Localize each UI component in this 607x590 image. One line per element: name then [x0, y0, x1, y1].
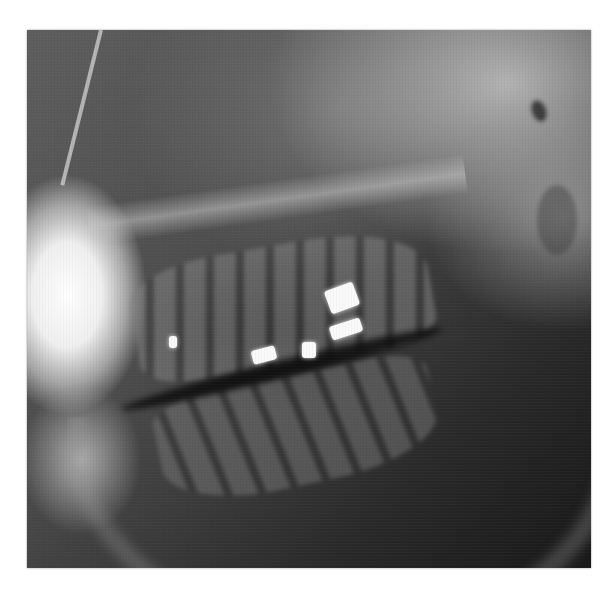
sinus-line — [60, 30, 103, 186]
oral-cavity — [97, 230, 477, 430]
lower-left-soft-tissue — [27, 360, 177, 560]
filling-upper-molar-1 — [251, 345, 278, 365]
dark-spot-1 — [529, 98, 550, 123]
xray-image — [27, 30, 591, 568]
dark-spot-2 — [537, 185, 577, 255]
overexposed-soft-tissue — [27, 160, 187, 460]
lower-teeth — [149, 347, 446, 513]
film-grain — [27, 30, 591, 568]
filling-lower-molar — [329, 317, 364, 340]
filling-upper-premolar — [169, 336, 177, 348]
mandible-outline — [67, 230, 591, 568]
filling-upper-molar-2 — [302, 342, 316, 358]
filling-upper-molar-3 — [324, 282, 360, 315]
zygomatic-arch — [86, 154, 468, 246]
occlusal-plane — [120, 320, 445, 417]
upper-teeth — [124, 220, 440, 390]
xray-base-tone — [27, 30, 591, 568]
